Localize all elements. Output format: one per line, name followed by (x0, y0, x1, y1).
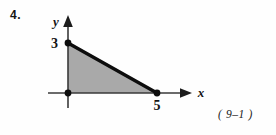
figure-page: 4. y x 3 5 (0, 0, 276, 135)
x-intercept-tick-label: 5 (154, 98, 161, 113)
graph-figure: y x 3 5 (40, 5, 210, 130)
coordinate-graph-svg: y x 3 5 (40, 5, 210, 130)
y-axis-arrow-icon (63, 15, 73, 27)
y-axis-label: y (51, 14, 59, 29)
vertex-point-y-intercept (65, 40, 72, 47)
x-axis-label: x (197, 85, 205, 100)
x-axis-arrow-icon (180, 88, 192, 98)
problem-number-label: 4. (10, 9, 21, 21)
y-intercept-tick-label: 3 (51, 36, 58, 51)
section-reference-tag: ( 9–1 ) (218, 108, 253, 120)
vertex-point-origin (65, 90, 72, 97)
vertex-point-x-intercept (154, 90, 161, 97)
